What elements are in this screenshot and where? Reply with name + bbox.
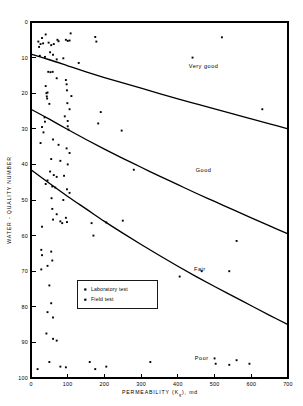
very-good-good-boundary [31,54,288,129]
data-point [45,85,47,87]
data-point [51,197,53,199]
data-point [67,120,69,122]
legend-marker-laboratory-test [84,288,86,290]
data-point [67,163,69,165]
y-tick-label-80: 80 [22,304,29,310]
data-point [44,56,46,58]
data-point [38,46,40,48]
data-point [47,71,49,73]
data-point [66,147,68,149]
data-point [66,221,68,223]
y-tick-label-100: 100 [18,375,28,381]
x-tick-label-0: 0 [29,381,32,387]
data-point [45,34,47,36]
classification-boundary-curves [31,54,288,325]
good-fair-boundary [31,109,288,234]
data-point [66,89,68,91]
data-point [40,249,42,251]
data-point [44,116,46,118]
data-point [41,226,43,228]
data-point [40,142,42,144]
data-point [94,36,96,38]
y-axis-title: WATER - QUALITY NUMBER [6,156,12,244]
data-point [179,276,181,278]
data-point [50,158,52,160]
data-point [52,219,54,221]
data-point [52,54,54,56]
data-point [95,41,97,43]
data-point [59,220,61,222]
region-label-fair: Fair [194,266,206,272]
data-point [47,265,49,267]
data-point [50,71,52,73]
y-axis-ticks: 0102030405060708090100 [18,19,36,381]
data-point [45,92,47,94]
x-tick-label-600: 600 [246,381,256,387]
data-point [39,55,41,57]
x-tick-label-200: 200 [100,381,110,387]
x-tick-label-700: 700 [283,381,293,387]
data-point [66,188,68,190]
data-point [48,361,50,363]
data-point [48,284,50,286]
data-point [43,131,45,133]
y-tick-label-0: 0 [25,19,28,25]
data-point [56,176,58,178]
region-annotation-layer: Very goodGoodFairPoor [189,63,219,361]
data-point [41,37,43,39]
data-point [62,199,64,201]
data-point [51,186,53,188]
data-point [69,40,71,42]
data-point [37,41,39,43]
data-point [59,366,61,368]
data-point [40,43,42,45]
data-point [65,39,67,41]
data-point [69,192,71,194]
data-point [47,311,49,313]
data-point [62,57,64,59]
data-point [52,338,54,340]
region-label-very-good: Very good [189,63,219,69]
y-tick-label-20: 20 [22,90,29,96]
x-tick-label-400: 400 [173,381,183,387]
y-tick-label-50: 50 [22,197,29,203]
data-point [40,268,42,270]
data-point [215,363,217,365]
data-point [50,302,52,304]
data-point [97,123,99,125]
data-point [228,270,230,272]
data-point [65,79,67,81]
data-point [56,77,58,79]
region-label-poor: Poor [195,355,209,361]
data-point [44,121,46,123]
y-tick-label-60: 60 [22,233,29,239]
x-axis-title-main: PERMEABILITY (K [122,389,179,395]
data-point [236,359,238,361]
data-point [52,71,54,73]
water-quality-vs-permeability-chart: 0100200300400500600700 01020304050607080… [0,0,303,406]
data-point [49,171,51,173]
data-point [37,368,39,370]
data-point [56,340,58,342]
x-tick-label-100: 100 [63,381,73,387]
y-axis-title-group: WATER - QUALITY NUMBER [6,156,12,244]
data-point [66,83,68,85]
data-point [58,40,60,42]
data-point [46,98,48,100]
x-axis-title-group: PERMEABILITY (Kg), md [122,389,198,397]
y-tick-label-40: 40 [22,161,29,167]
data-point [48,103,50,105]
data-point [133,169,135,171]
data-point [61,222,63,224]
data-point [42,42,44,44]
x-axis-title-end: ), md [182,389,198,395]
data-point [65,366,67,368]
data-point [51,208,53,210]
data-point [52,139,54,141]
x-tick-label-300: 300 [136,381,146,387]
data-point [68,129,70,131]
data-point [105,366,107,368]
data-point [41,126,43,128]
data-point [49,51,51,53]
data-point [100,111,102,113]
